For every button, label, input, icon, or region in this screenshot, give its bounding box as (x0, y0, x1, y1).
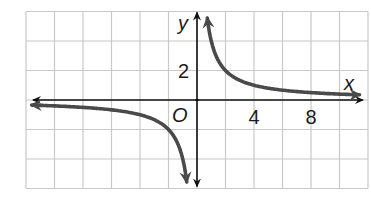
curve-negative-lower (169, 130, 187, 182)
curve-positive-upper (207, 18, 225, 70)
hyperbola-graph: yxO482 (0, 0, 371, 203)
curve-negative-left (32, 105, 169, 129)
x-axis-label: x (343, 72, 355, 94)
x-tick-label: 8 (305, 106, 316, 128)
y-tick-label: 2 (178, 60, 189, 82)
y-axis-label: y (176, 12, 189, 34)
x-tick-label: 4 (248, 106, 259, 128)
origin-label: O (172, 104, 188, 126)
